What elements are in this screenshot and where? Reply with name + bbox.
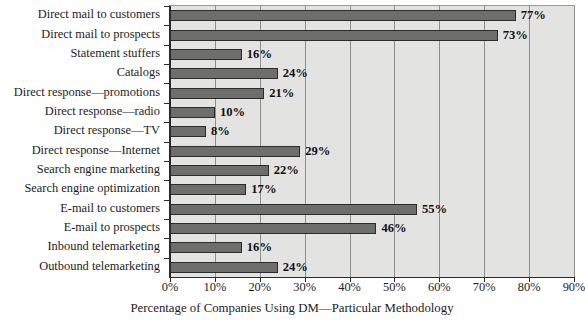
- bar-value-label: 8%: [211, 125, 230, 138]
- gridline-50%: [394, 6, 395, 277]
- category-label: Outbound telemarketing: [0, 260, 165, 272]
- bar: [170, 68, 278, 79]
- bar-value-label: 10%: [220, 106, 245, 119]
- y-tick-mark: [164, 219, 170, 220]
- y-tick-mark: [164, 238, 170, 239]
- bar-value-label: 73%: [503, 29, 528, 42]
- category-label: E-mail to customers: [0, 202, 165, 214]
- x-tick-label: 30%: [293, 281, 316, 293]
- category-label: Direct response—promotions: [0, 86, 165, 98]
- gridline-0%: [170, 6, 171, 277]
- x-tick-label: 70%: [473, 281, 496, 293]
- x-tick-label: 60%: [428, 281, 451, 293]
- x-axis-title: Percentage of Companies Using DM—Particu…: [0, 301, 584, 315]
- bar: [170, 204, 417, 215]
- y-tick-mark: [164, 83, 170, 84]
- gridline-10%: [215, 6, 216, 277]
- bar-value-label: 24%: [283, 67, 308, 80]
- bar: [170, 223, 376, 234]
- bar-value-label: 24%: [283, 261, 308, 274]
- gridline-90%: [574, 6, 575, 277]
- bar: [170, 242, 242, 253]
- y-tick-mark: [164, 103, 170, 104]
- y-tick-mark: [164, 64, 170, 65]
- x-tick-label: 50%: [383, 281, 406, 293]
- bar: [170, 107, 215, 118]
- y-tick-mark: [164, 161, 170, 162]
- category-label: Direct response—TV: [0, 124, 165, 136]
- category-label: Direct mail to customers: [0, 8, 165, 20]
- y-tick-mark: [164, 25, 170, 26]
- bar: [170, 30, 498, 41]
- bar: [170, 88, 264, 99]
- bar-value-label: 29%: [305, 145, 330, 158]
- y-tick-mark: [164, 142, 170, 143]
- y-tick-mark: [164, 122, 170, 123]
- category-label: Direct mail to prospects: [0, 28, 165, 40]
- bar-value-label: 16%: [247, 48, 272, 61]
- bar-value-label: 21%: [269, 87, 294, 100]
- bar: [170, 262, 278, 273]
- y-tick-mark: [164, 180, 170, 181]
- bar: [170, 146, 300, 157]
- gridline-60%: [439, 6, 440, 277]
- gridline-30%: [305, 6, 306, 277]
- x-tick-label: 0%: [162, 281, 179, 293]
- category-label: Inbound telemarketing: [0, 240, 165, 252]
- x-tick-label: 40%: [338, 281, 361, 293]
- bar-value-label: 22%: [274, 164, 299, 177]
- plot-area: 77%73%16%24%21%10%8%29%22%17%55%46%16%24…: [169, 5, 575, 278]
- bar-value-label: 55%: [422, 203, 447, 216]
- category-label: Catalogs: [0, 66, 165, 78]
- y-tick-mark: [164, 258, 170, 259]
- y-tick-mark: [164, 6, 170, 7]
- category-label: Direct response—radio: [0, 105, 165, 117]
- gridline-70%: [484, 6, 485, 277]
- x-tick-label: 10%: [204, 281, 227, 293]
- x-tick-label: 90%: [563, 281, 585, 293]
- category-axis-labels: Direct mail to customersDirect mail to p…: [0, 5, 165, 278]
- bar: [170, 10, 516, 21]
- category-label: Direct response—Internet: [0, 144, 165, 156]
- category-label: E-mail to prospects: [0, 221, 165, 233]
- category-label: Statement stuffers: [0, 47, 165, 59]
- bar-value-label: 77%: [521, 9, 546, 22]
- y-tick-mark: [164, 45, 170, 46]
- bar: [170, 126, 206, 137]
- bar: [170, 165, 269, 176]
- category-label: Search engine optimization: [0, 182, 165, 194]
- bar-value-label: 16%: [247, 241, 272, 254]
- gridline-40%: [350, 6, 351, 277]
- y-tick-mark: [164, 200, 170, 201]
- category-label: Search engine marketing: [0, 163, 165, 175]
- bar: [170, 184, 246, 195]
- x-tick-label: 80%: [518, 281, 541, 293]
- bar-value-label: 46%: [381, 222, 406, 235]
- bar-value-label: 17%: [251, 183, 276, 196]
- x-axis-tick-labels: 0%10%20%30%40%50%60%70%80%90%: [169, 281, 575, 297]
- x-tick-label: 20%: [248, 281, 271, 293]
- bar: [170, 49, 242, 60]
- gridline-80%: [529, 6, 530, 277]
